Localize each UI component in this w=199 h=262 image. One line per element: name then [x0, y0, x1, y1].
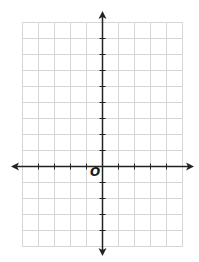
y-axis [99, 11, 107, 256]
coordinate-plane [0, 0, 199, 262]
origin-label: O [90, 166, 100, 178]
